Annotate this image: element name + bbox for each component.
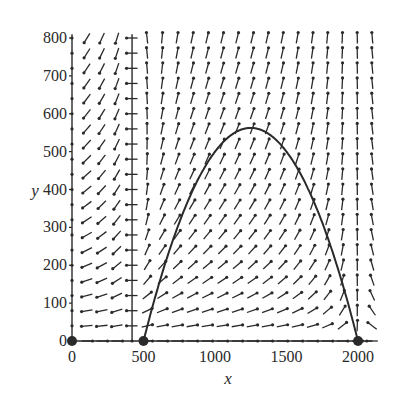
y-tick-labels: 0100200300400500600700800 [43, 29, 67, 349]
x-tick-label: 1500 [271, 348, 303, 365]
y-tick-label: 600 [43, 105, 67, 122]
direction-field-plot: 0500100015002000 01002003004005006007008… [0, 0, 404, 417]
y-tick-label: 0 [59, 332, 67, 349]
slope-field-arrows [70, 31, 377, 343]
x-tick-label: 2000 [342, 348, 374, 365]
y-tick-label: 800 [43, 29, 67, 46]
y-tick-label: 100 [43, 294, 67, 311]
x-tick-label: 0 [68, 348, 76, 365]
trajectory-curve [144, 128, 359, 341]
y-tick-label: 300 [43, 218, 67, 235]
y-tick-label: 400 [43, 181, 67, 198]
axes [69, 34, 372, 341]
x-tick-label: 500 [132, 348, 156, 365]
x-tick-labels: 0500100015002000 [68, 348, 374, 365]
y-tick-label: 700 [43, 67, 67, 84]
y-axis-label: y [29, 181, 39, 200]
x-tick-label: 1000 [199, 348, 231, 365]
y-tick-label: 500 [43, 143, 67, 160]
x-axis-label: x [223, 369, 232, 388]
y-tick-label: 200 [43, 256, 67, 273]
